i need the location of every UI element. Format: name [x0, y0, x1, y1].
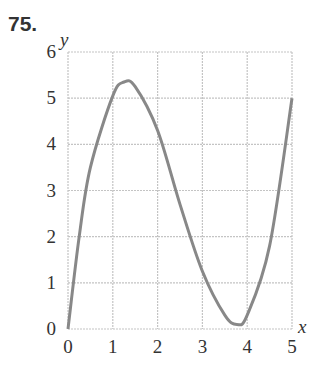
data-curve	[68, 81, 292, 329]
svg-text:5: 5	[47, 87, 57, 108]
svg-text:1: 1	[108, 336, 118, 357]
y-axis-label: y	[58, 29, 69, 50]
svg-text:2: 2	[153, 336, 163, 357]
svg-text:2: 2	[47, 226, 57, 247]
svg-text:4: 4	[47, 133, 57, 154]
chart: 012345 0123456 x y	[0, 0, 331, 379]
svg-text:0: 0	[63, 336, 73, 357]
svg-text:3: 3	[47, 180, 57, 201]
svg-text:4: 4	[242, 336, 252, 357]
y-tick-labels: 0123456	[47, 41, 57, 339]
svg-text:5: 5	[287, 336, 297, 357]
svg-text:0: 0	[47, 318, 57, 339]
svg-text:6: 6	[47, 41, 57, 62]
svg-text:1: 1	[47, 272, 57, 293]
svg-text:3: 3	[198, 336, 208, 357]
x-axis-label: x	[297, 316, 307, 337]
x-tick-labels: 012345	[63, 336, 297, 357]
